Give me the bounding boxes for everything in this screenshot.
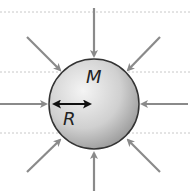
mass-label: M (86, 66, 102, 87)
field-diagram: M R (0, 0, 192, 191)
field-arrow-from-top-left (27, 37, 60, 70)
field-arrow-from-bottom-right (128, 140, 160, 172)
field-arrow-from-top-right (128, 37, 160, 70)
field-arrow-from-bottom-left (27, 140, 60, 172)
radius-label: R (63, 108, 76, 129)
